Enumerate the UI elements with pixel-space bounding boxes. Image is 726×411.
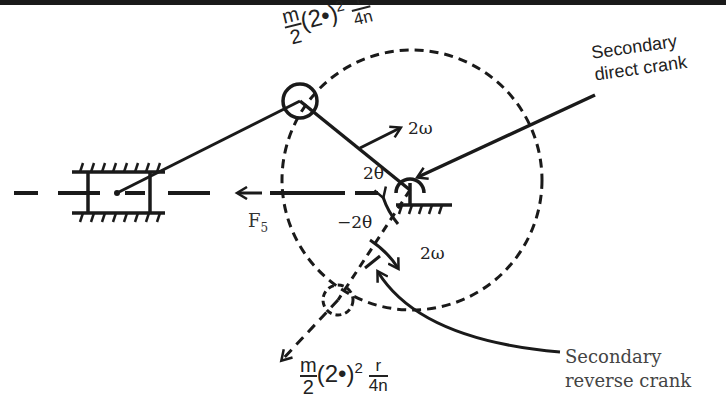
omega-direct-label: 2ω (408, 118, 433, 138)
direct-crank-pointer (418, 95, 595, 177)
reverse-crank-arm (338, 190, 410, 300)
reverse-crank-pointer (378, 272, 560, 352)
force-subscript: 5 (261, 221, 269, 235)
frac-denominator: 4n (352, 7, 375, 29)
mass-base: (2•) (317, 360, 355, 387)
reverse-mass-label: m2(2•)2r4n (300, 355, 388, 397)
theta-direct-label: 2θ (363, 163, 384, 183)
label-line: reverse crank (565, 369, 691, 393)
frac-numerator: r (369, 357, 388, 377)
connecting-rod (117, 101, 300, 193)
omega-direct-arrow (360, 128, 400, 148)
mass-base: (2•) (297, 0, 340, 35)
secondary-reverse-crank-label: Secondary reverse crank (565, 345, 691, 393)
mass-numerator: m (300, 355, 317, 377)
label-line: Secondary (565, 345, 691, 369)
reverse-force-line (282, 300, 338, 360)
diagram-canvas: m2(2•)2r4n m2(2•)2r4n Secondary direct c… (0, 0, 726, 411)
force-symbol: F (248, 210, 261, 231)
mass-exponent: 2 (354, 359, 362, 376)
theta-reverse-label: −2θ (337, 212, 372, 232)
force-label: F5 (248, 210, 268, 235)
reverse-crank-tick (365, 256, 380, 268)
direct-crank-arm (300, 101, 410, 190)
mass-denominator: 2 (303, 376, 314, 398)
frac-denominator: 4n (369, 377, 388, 395)
omega-reverse-label: 2ω (420, 243, 445, 263)
omega-reverse-arrow (370, 240, 398, 268)
